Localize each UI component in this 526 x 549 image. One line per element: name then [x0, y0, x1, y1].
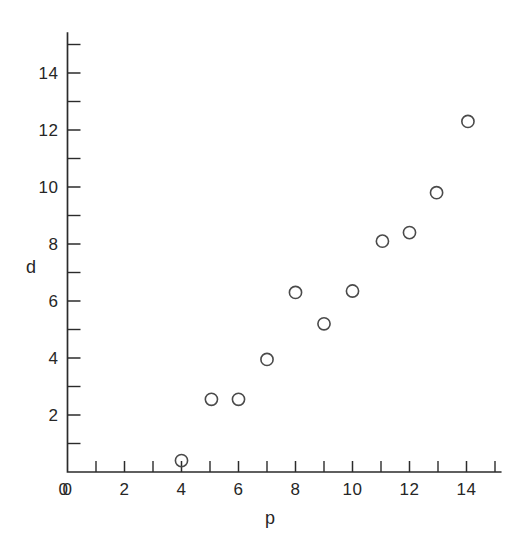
axis-spines [68, 33, 501, 472]
data-point-marker [376, 235, 388, 247]
scatter-plot-figure: 02468101214 02468101214 dp [0, 0, 526, 549]
data-point-marker [430, 187, 442, 199]
y-tick-group: 02468101214 [39, 45, 81, 500]
axes-group [68, 33, 501, 472]
y-axis-tick-label: 2 [49, 406, 59, 425]
data-point-marker [261, 353, 273, 365]
y-axis-tick-label: 0 [59, 480, 69, 499]
x-axis-title: p [265, 508, 275, 528]
data-point-marker [462, 115, 474, 127]
x-axis-tick-label: 12 [400, 480, 420, 499]
data-point-group [175, 115, 474, 466]
x-axis-tick-label: 2 [120, 480, 130, 499]
data-point-marker [318, 318, 330, 330]
x-tick-group: 02468101214 [63, 461, 495, 499]
x-axis-tick-label: 6 [234, 480, 244, 499]
data-point-marker [232, 393, 244, 405]
y-axis-tick-label: 14 [39, 64, 59, 83]
x-axis-tick-label: 14 [457, 480, 477, 499]
x-axis-tick-label: 10 [343, 480, 363, 499]
data-point-marker [346, 285, 358, 297]
y-axis-tick-label: 10 [39, 178, 59, 197]
x-axis-tick-label: 8 [291, 480, 301, 499]
y-axis-tick-label: 8 [49, 235, 59, 254]
plot-canvas: 02468101214 02468101214 dp [0, 0, 526, 549]
data-point-marker [403, 227, 415, 239]
data-point-marker [205, 393, 217, 405]
y-axis-tick-label: 6 [49, 292, 59, 311]
y-axis-tick-label: 12 [39, 121, 59, 140]
y-axis-title: d [26, 257, 36, 277]
data-point-marker [289, 286, 301, 298]
y-axis-tick-label: 4 [49, 349, 59, 368]
x-axis-tick-label: 4 [177, 480, 187, 499]
